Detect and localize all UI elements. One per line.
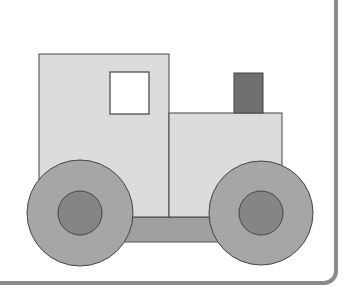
right-wheel-hub — [239, 191, 283, 235]
tractor-illustration — [0, 0, 344, 289]
right-wheel — [209, 161, 313, 265]
tractor-chimney — [234, 73, 263, 113]
left-wheel — [27, 160, 133, 266]
tractor-window — [110, 72, 149, 114]
left-wheel-hub — [58, 191, 102, 235]
